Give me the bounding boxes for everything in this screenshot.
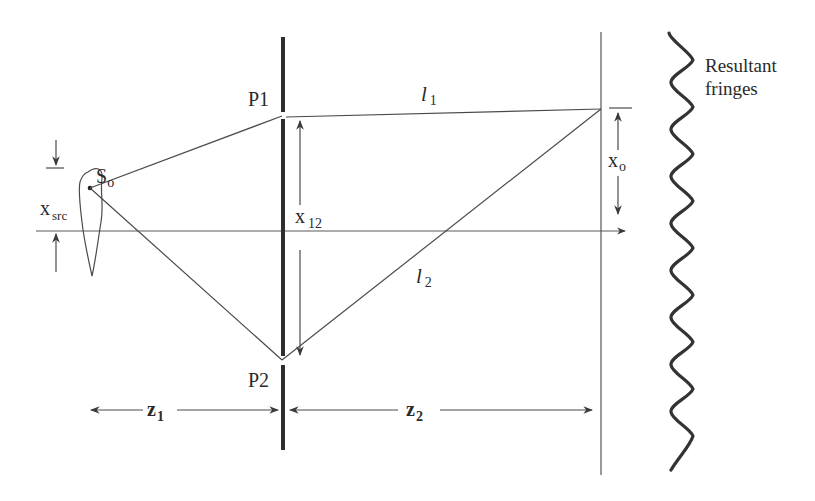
l2-label: l2 [416,264,432,290]
pinhole1-label: P1 [248,88,269,110]
xsrc-label: xsrc [40,197,67,223]
ray-source-p2 [90,188,282,360]
xo-label: xo [608,149,626,174]
z1-label: z1 [147,398,164,424]
fringes-label-line2: fringes [705,78,758,99]
fringe-wave [669,33,693,470]
ray-l1 [286,109,601,117]
l1-label: l1 [421,82,437,108]
z2-label: z2 [406,398,423,424]
pinhole2-label: P2 [248,369,269,391]
x12-label: x12 [295,205,322,231]
ray-source-p1 [90,116,282,188]
fringes-label-line1: Resultant [705,55,777,76]
interference-diagram: So xsrc P1 P2 x12 l1 l2 xo z1 z2 Resulta… [0,0,815,501]
ray-l2 [282,109,601,360]
source-label: So [96,165,114,190]
